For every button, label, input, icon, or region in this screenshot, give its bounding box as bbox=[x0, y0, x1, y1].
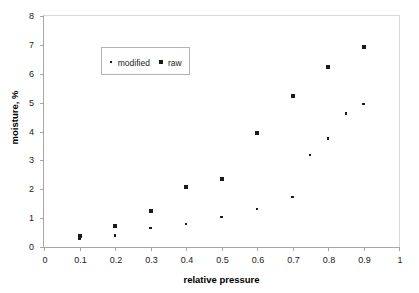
x-axis-tick-label: 0.6 bbox=[252, 254, 265, 267]
data-point-raw bbox=[220, 177, 224, 181]
plot-area: 012345678 00.10.20.30.40.50.60.70.80.91 … bbox=[43, 15, 400, 248]
data-point-modified bbox=[362, 103, 364, 105]
data-point-raw bbox=[326, 65, 330, 69]
x-axis-tick: 0.3 bbox=[151, 247, 152, 251]
data-point-modified bbox=[220, 216, 222, 218]
legend-label-raw: raw bbox=[168, 58, 182, 68]
data-point-modified bbox=[149, 227, 151, 229]
y-axis-tick: 2 bbox=[40, 189, 44, 190]
legend-entry-raw: raw bbox=[159, 57, 182, 68]
data-point-raw bbox=[291, 94, 295, 98]
x-axis-tick-label: 0.1 bbox=[74, 254, 87, 267]
x-axis-tick: 0.2 bbox=[115, 247, 116, 251]
x-axis-tick-label: 1 bbox=[397, 254, 402, 267]
x-axis-tick-label: 0.9 bbox=[358, 254, 371, 267]
data-point-modified bbox=[256, 208, 258, 210]
data-point-modified bbox=[309, 154, 311, 156]
x-axis-tick: 1 bbox=[399, 247, 400, 251]
x-axis-tick: 0.4 bbox=[186, 247, 187, 251]
x-axis-tick-label: 0.7 bbox=[287, 254, 300, 267]
data-point-modified bbox=[114, 234, 116, 236]
legend-marker-dot-icon bbox=[110, 61, 112, 63]
data-point-raw bbox=[255, 131, 259, 135]
y-axis-tick: 7 bbox=[40, 45, 44, 46]
y-axis-tick: 1 bbox=[40, 218, 44, 219]
y-axis-tick: 6 bbox=[40, 74, 44, 75]
legend-marker-square-icon bbox=[159, 60, 163, 64]
data-point-modified bbox=[185, 223, 187, 225]
x-axis-tick: 0.6 bbox=[257, 247, 258, 251]
x-axis-title: relative pressure bbox=[43, 274, 400, 285]
y-axis-tick: 5 bbox=[40, 103, 44, 104]
data-point-raw bbox=[149, 209, 153, 213]
data-point-raw bbox=[78, 234, 82, 238]
x-axis-tick: 0.9 bbox=[364, 247, 365, 251]
y-axis-tick-label: 7 bbox=[29, 39, 34, 52]
x-axis-tick-label: 0.2 bbox=[110, 254, 123, 267]
x-axis-tick: 0.7 bbox=[293, 247, 294, 251]
x-axis-tick-label: 0 bbox=[42, 254, 47, 267]
y-axis-tick: 4 bbox=[40, 132, 44, 133]
y-axis-tick-label: 8 bbox=[29, 10, 34, 23]
y-axis-tick-label: 1 bbox=[29, 212, 34, 225]
legend-entry-modified: modified bbox=[110, 57, 150, 68]
data-point-raw bbox=[362, 45, 366, 49]
data-point-raw bbox=[184, 185, 188, 189]
x-axis-tick: 0 bbox=[44, 247, 45, 251]
scatter-chart-figure: 012345678 00.10.20.30.40.50.60.70.80.91 … bbox=[0, 0, 419, 293]
data-point-modified bbox=[291, 196, 293, 198]
x-axis-tick-label: 0.8 bbox=[323, 254, 336, 267]
y-axis-tick: 3 bbox=[40, 160, 44, 161]
x-axis-tick: 0.1 bbox=[80, 247, 81, 251]
x-axis-tick-label: 0.4 bbox=[181, 254, 194, 267]
y-axis-title: moisture, % bbox=[9, 58, 20, 178]
x-axis-tick: 0.5 bbox=[222, 247, 223, 251]
legend-label-modified: modified bbox=[118, 58, 150, 68]
chart-legend: modified raw bbox=[101, 47, 190, 75]
x-axis-tick-label: 0.3 bbox=[145, 254, 158, 267]
data-point-raw bbox=[113, 224, 117, 228]
data-point-modified bbox=[327, 137, 329, 139]
y-axis-tick: 8 bbox=[40, 16, 44, 17]
y-axis-tick-label: 4 bbox=[29, 126, 34, 139]
y-axis-tick-label: 2 bbox=[29, 183, 34, 196]
y-axis-tick-label: 0 bbox=[29, 241, 34, 254]
data-point-modified bbox=[345, 112, 347, 114]
x-axis-tick: 0.8 bbox=[328, 247, 329, 251]
y-axis-tick-label: 5 bbox=[29, 97, 34, 110]
y-axis-tick-label: 6 bbox=[29, 68, 34, 81]
y-axis-tick-label: 3 bbox=[29, 154, 34, 167]
x-axis-tick-label: 0.5 bbox=[216, 254, 229, 267]
